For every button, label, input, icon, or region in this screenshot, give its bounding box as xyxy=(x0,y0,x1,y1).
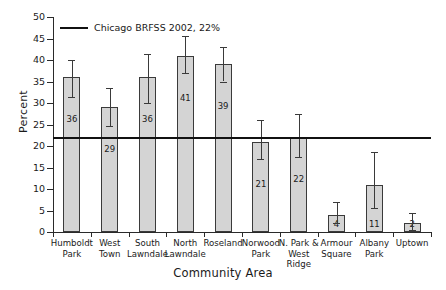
y-axis-tick-label: 30 xyxy=(21,98,45,108)
x-axis-tick xyxy=(280,232,281,237)
error-bar-line xyxy=(261,120,262,159)
y-axis-tick xyxy=(47,211,53,212)
x-axis-tick xyxy=(318,232,319,237)
error-bar-cap-lower xyxy=(144,103,151,104)
y-axis-tick-label: 50 xyxy=(21,12,45,22)
x-axis-tick xyxy=(242,232,243,237)
error-bar-cap-lower xyxy=(106,126,113,127)
error-bar-cap-upper xyxy=(257,120,264,121)
category-label-line: Uptown xyxy=(389,238,435,249)
reference-line xyxy=(53,137,431,139)
error-bar-cap-lower xyxy=(371,208,378,209)
error-bar-cap-upper xyxy=(68,60,75,61)
y-axis-tick xyxy=(47,60,53,61)
y-axis-tick xyxy=(47,17,53,18)
bar-value-label: 21 xyxy=(252,180,269,189)
error-bar-line xyxy=(185,36,186,73)
y-axis-tick-label: 40 xyxy=(21,55,45,65)
error-bar-line xyxy=(223,47,224,81)
x-axis-tick xyxy=(166,232,167,237)
error-bar-line xyxy=(412,213,413,230)
bar-value-label: 36 xyxy=(63,115,80,124)
bar xyxy=(177,56,194,232)
error-bar-cap-lower xyxy=(182,73,189,74)
bar-value-label: 22 xyxy=(290,175,307,184)
y-axis-tick xyxy=(47,146,53,147)
error-bar-cap-lower xyxy=(333,223,340,224)
error-bar-cap-upper xyxy=(333,202,340,203)
x-axis-tick xyxy=(53,232,54,237)
y-axis-tick-label: 10 xyxy=(21,184,45,194)
x-axis-tick xyxy=(129,232,130,237)
error-bar-cap-upper xyxy=(295,114,302,115)
x-axis-tick xyxy=(355,232,356,237)
bar xyxy=(63,77,80,232)
plot-area: 05101520253035404550 362936413921224112 xyxy=(53,17,431,232)
x-axis-title: Community Area xyxy=(0,266,446,280)
error-bar-cap-upper xyxy=(106,88,113,89)
error-bar-line xyxy=(374,152,375,208)
category-label-line: Lawndale xyxy=(162,249,208,260)
x-axis-tick xyxy=(431,232,432,237)
error-bar-cap-upper xyxy=(182,36,189,37)
y-axis-tick-label: 45 xyxy=(21,34,45,44)
error-bar-cap-upper xyxy=(409,213,416,214)
error-bar-cap-lower xyxy=(295,157,302,158)
y-axis-tick xyxy=(47,189,53,190)
error-bar-cap-lower xyxy=(220,82,227,83)
x-axis-tick xyxy=(91,232,92,237)
bar-chart: Percent Community Area Chicago BRFSS 200… xyxy=(0,0,446,290)
bar-value-label: 11 xyxy=(366,220,383,229)
y-axis-tick-label: 0 xyxy=(21,227,45,237)
bar-value-label: 39 xyxy=(215,102,232,111)
y-axis-tick xyxy=(47,168,53,169)
error-bar-line xyxy=(110,88,111,126)
y-axis-tick-label: 20 xyxy=(21,141,45,151)
error-bar-cap-lower xyxy=(257,159,264,160)
category-label-line: Park xyxy=(351,249,397,260)
y-axis-tick-label: 5 xyxy=(21,206,45,216)
bar-value-label: 36 xyxy=(139,115,156,124)
bar-value-label: 41 xyxy=(177,94,194,103)
error-bar-cap-upper xyxy=(144,54,151,55)
y-axis-tick-label: 15 xyxy=(21,163,45,173)
error-bar-cap-upper xyxy=(371,152,378,153)
y-axis-tick-label: 35 xyxy=(21,77,45,87)
bar-value-label: 29 xyxy=(101,145,118,154)
error-bar-cap-lower xyxy=(409,230,416,231)
y-axis-tick xyxy=(47,103,53,104)
error-bar-line xyxy=(299,114,300,157)
y-axis-tick xyxy=(47,39,53,40)
error-bar-line xyxy=(148,54,149,103)
error-bar-line xyxy=(72,60,73,97)
bar xyxy=(215,64,232,232)
y-axis-tick xyxy=(47,125,53,126)
error-bar-cap-upper xyxy=(220,47,227,48)
y-axis-tick-label: 25 xyxy=(21,120,45,130)
x-axis-tick xyxy=(204,232,205,237)
y-axis-line xyxy=(53,17,54,232)
y-axis-tick xyxy=(47,82,53,83)
x-axis-tick xyxy=(393,232,394,237)
error-bar-cap-lower xyxy=(68,97,75,98)
error-bar-line xyxy=(337,202,338,224)
x-axis-category-label: Uptown xyxy=(389,238,435,249)
